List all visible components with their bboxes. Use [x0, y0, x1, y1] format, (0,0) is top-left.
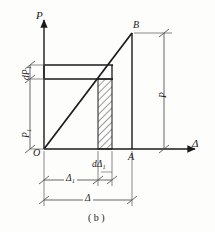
point-label-B: B: [133, 20, 139, 30]
x-axis-label: Δ: [192, 138, 198, 149]
figure-container: P Δ O A B dP₁ P₁ P Δ₁ dΔ₁ Δ ( b ): [0, 0, 215, 232]
hatched-strip: [98, 79, 112, 149]
figure-caption: ( b ): [88, 212, 105, 223]
dimension-label-P1: P₁: [22, 129, 32, 138]
dimension-label-dP1: dP₁: [22, 66, 32, 80]
line-OB: [44, 33, 132, 149]
dimension-label-delta1: Δ₁: [64, 174, 77, 184]
dimension-label-P: P: [159, 92, 169, 98]
dimension-label-d-delta1: dΔ₁: [92, 160, 106, 170]
point-label-O: O: [33, 148, 40, 158]
point-label-A: A: [128, 152, 134, 162]
dimension-label-delta-total: Δ: [83, 194, 93, 204]
load-deflection-diagram: [0, 0, 215, 232]
right-dimension-P: [134, 29, 172, 153]
y-axis-label: P: [36, 10, 43, 21]
